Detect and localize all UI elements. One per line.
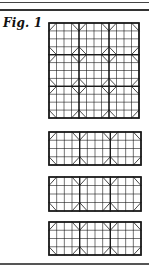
strip-2 — [49, 177, 141, 211]
strip-1 — [49, 132, 141, 165]
figure-drawing — [0, 0, 149, 266]
strip-3 — [49, 222, 141, 255]
main-grid — [49, 23, 139, 118]
bottom-rule — [0, 263, 149, 265]
